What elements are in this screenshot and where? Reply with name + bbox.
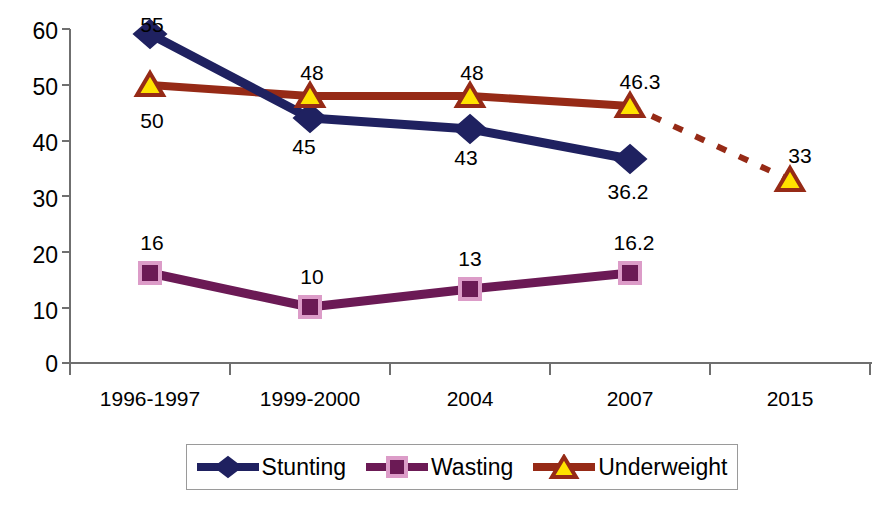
x-axis-tick-label: 1999-2000 [230,388,390,409]
legend-marker-stunting-icon [197,454,259,480]
legend-label-underweight: Underweight [598,456,727,479]
data-label-stunting: 43 [454,147,477,168]
legend-label-stunting: Stunting [262,456,346,479]
data-label-wasting: 13 [458,248,481,269]
legend-marker-wasting-icon [366,454,428,480]
series-line-wasting [150,273,630,307]
data-label-wasting: 10 [300,266,323,287]
data-label-stunting: 55 [140,14,163,35]
x-axis-tick-label: 2004 [390,388,550,409]
legend-item-stunting[interactable]: Stunting [197,454,346,480]
data-label-underweight: 48 [460,62,483,83]
x-axis-tick-label: 1996-1997 [70,388,230,409]
data-label-underweight: 46.3 [620,71,661,92]
data-label-wasting: 16 [140,232,163,253]
x-axis-tick-label: 2015 [710,388,870,409]
data-label-stunting: 45 [292,136,315,157]
chart-legend: Stunting Wasting Underweight [186,444,738,490]
x-axis-tick-label: 2007 [550,388,710,409]
data-label-underweight: 48 [300,62,323,83]
data-label-wasting: 16.2 [614,232,655,253]
chart-container: 60 50 40 30 20 10 0 [0,0,886,516]
data-label-underweight: 33 [788,145,811,166]
legend-item-underweight[interactable]: Underweight [533,454,727,480]
legend-item-wasting[interactable]: Wasting [366,454,513,480]
legend-marker-underweight-icon [533,454,595,480]
plot-area [0,0,886,516]
data-label-stunting: 36.2 [608,181,649,202]
data-label-underweight: 50 [140,110,163,131]
legend-label-wasting: Wasting [431,456,513,479]
